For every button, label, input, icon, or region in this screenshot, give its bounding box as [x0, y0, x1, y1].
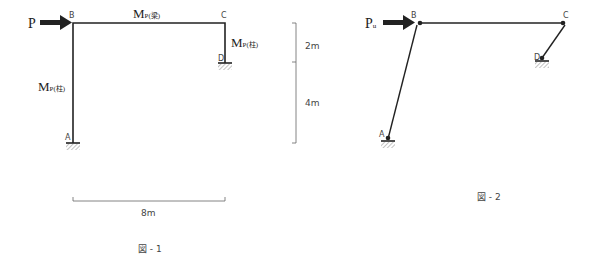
- dim-width-label: 8m: [141, 208, 156, 218]
- node-label-d: D: [218, 54, 224, 63]
- figure-2: Pu B C D A 図 - 2: [365, 11, 569, 202]
- ultimate-load-label: Pu: [365, 16, 377, 31]
- fixed-support-a2: [381, 141, 395, 148]
- figure-1-caption: 図 - 1: [138, 244, 162, 254]
- node-label-a2: A: [379, 130, 385, 139]
- plastic-hinge-a: [386, 136, 391, 141]
- node-label-d2: D: [534, 53, 540, 62]
- figure-1: P B C D A MP(梁) MP(柱) MP(柱) 2m 4m 8m 図 -…: [28, 6, 320, 254]
- node-label-b2: B: [411, 11, 417, 20]
- fixed-support-d2: [535, 61, 549, 68]
- node-label-b: B: [69, 11, 75, 20]
- vertical-dimension: [292, 23, 296, 143]
- diagram-canvas: P B C D A MP(梁) MP(柱) MP(柱) 2m 4m 8m 図 -…: [0, 0, 595, 261]
- node-label-c: C: [221, 11, 227, 20]
- node-label-c2: C: [563, 11, 569, 20]
- moment-col-left-label: MP(柱): [38, 79, 66, 94]
- dim-upper-label: 2m: [305, 41, 320, 51]
- fixed-support-d: [218, 63, 232, 70]
- dim-lower-label: 4m: [305, 98, 320, 108]
- moment-beam-label: MP(梁): [133, 6, 161, 21]
- frame-fig1: [73, 23, 225, 143]
- figure-2-caption: 図 - 2: [477, 192, 501, 202]
- load-label: P: [28, 16, 36, 31]
- load-arrow-icon: [40, 15, 72, 30]
- plastic-hinge-c: [561, 21, 566, 26]
- column-cd: [542, 25, 565, 58]
- plastic-hinge-b: [418, 21, 423, 26]
- plastic-hinge-d: [540, 56, 545, 61]
- column-ab: [388, 25, 417, 139]
- moment-col-right-label: MP(柱): [231, 35, 259, 50]
- fixed-support-a: [66, 143, 80, 150]
- horizontal-dimension: [73, 197, 225, 201]
- node-label-a: A: [65, 133, 71, 142]
